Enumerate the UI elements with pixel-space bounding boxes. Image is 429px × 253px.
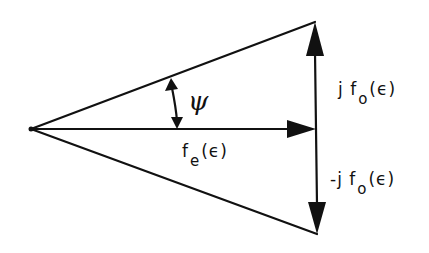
jfo-vector-line [315, 52, 316, 129]
upper-resultant-line [31, 22, 315, 129]
jfo-subscript: o [358, 90, 368, 108]
minus-jfo-vector-line [316, 129, 317, 205]
jfo-argument: (ϵ) [369, 79, 396, 99]
fe-main: f [182, 141, 189, 161]
psi-arrowhead-down-icon [171, 117, 183, 129]
minus-jfo-argument: (ϵ) [368, 169, 395, 189]
fe-subscript: e [190, 152, 200, 170]
minus-jfo-arrowhead-icon [308, 202, 326, 234]
fe-argument: (ϵ) [201, 141, 228, 161]
jfo-label: j fo(ϵ) [338, 81, 396, 98]
psi-arrowhead-up-icon [165, 78, 178, 91]
fe-label: fe(ϵ) [182, 143, 228, 160]
phasor-diagram [0, 0, 429, 253]
minus-jfo-label: -j fo(ϵ) [330, 171, 395, 188]
psi-angle-label: ψ [188, 88, 208, 114]
fe-arrowhead-icon [287, 120, 316, 138]
origin-point [29, 127, 34, 132]
jfo-main: f [350, 79, 357, 99]
jfo-prefix: j [338, 79, 344, 99]
minus-jfo-subscript: o [357, 180, 367, 198]
lower-resultant-line [31, 129, 317, 234]
psi-symbol: ψ [188, 86, 208, 116]
minus-jfo-main: f [349, 169, 356, 189]
jfo-arrowhead-icon [306, 22, 324, 56]
psi-angle-arc [172, 88, 177, 121]
minus-jfo-prefix: -j [330, 169, 343, 189]
